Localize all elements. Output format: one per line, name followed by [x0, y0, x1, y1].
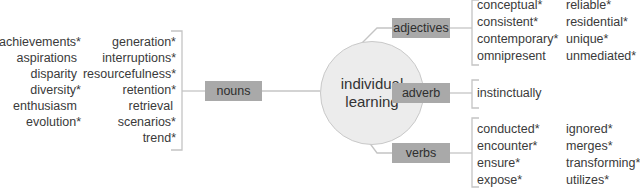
- noun-word: resourcefulness*: [83, 66, 176, 82]
- noun-word: interruptions*: [102, 50, 176, 66]
- noun-word: trend*: [143, 130, 176, 146]
- adjective-word: unique*: [566, 31, 608, 47]
- center-label-line2: learning: [345, 93, 398, 111]
- adjective-word: omnipresent: [477, 48, 546, 64]
- verbs-box: verbs: [392, 143, 450, 163]
- noun-word: retention*: [122, 82, 176, 98]
- nouns-box: nouns: [205, 81, 262, 101]
- noun-word: disparity: [30, 66, 77, 82]
- adverb-box: adverb: [392, 83, 450, 103]
- adjective-word: consistent*: [477, 14, 538, 30]
- noun-word: aspirations: [17, 50, 77, 66]
- verb-word: ensure*: [477, 155, 520, 171]
- noun-word: retrieval: [129, 98, 173, 114]
- verb-word: expose*: [477, 172, 522, 188]
- verb-word: encounter*: [477, 138, 537, 154]
- noun-word: scenarios*: [118, 114, 176, 130]
- adjective-word: conceptual*: [477, 0, 542, 13]
- verb-word: conducted*: [477, 121, 540, 137]
- adjectives-box: adjectives: [392, 18, 450, 38]
- noun-word: enthusiasm: [13, 98, 77, 114]
- noun-word: diversity*: [30, 82, 81, 98]
- noun-word: evolution*: [26, 114, 81, 130]
- verb-word: transforming*: [566, 155, 640, 171]
- noun-word: generation*: [112, 34, 176, 50]
- adjective-word: reliable*: [566, 0, 611, 13]
- adverb-word: instinctually: [477, 85, 542, 101]
- verb-word: ignored*: [566, 121, 613, 137]
- adjective-word: residential*: [566, 14, 628, 30]
- verb-word: utilizes*: [566, 172, 609, 188]
- verb-word: merges*: [566, 138, 613, 154]
- noun-word: achievements*: [0, 34, 81, 50]
- adjective-word: unmediated*: [566, 48, 636, 64]
- adjective-word: contemporary*: [477, 31, 558, 47]
